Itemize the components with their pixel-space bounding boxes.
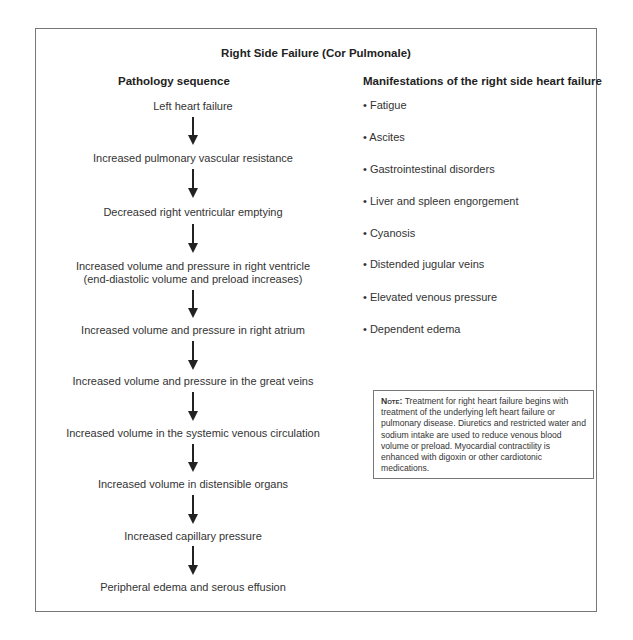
note-label: Note: [381, 396, 402, 406]
down-arrow-icon [192, 392, 194, 419]
step-left-heart-failure: Left heart failure [43, 99, 343, 113]
down-arrow-icon [192, 224, 194, 251]
step-pulmonary-resistance: Increased pulmonary vascular resistance [43, 151, 343, 165]
step-capillary-pressure: Increased capillary pressure [43, 529, 343, 543]
manifestation-item: • Ascites [363, 131, 405, 143]
manifestation-item: • Fatigue [363, 99, 407, 111]
down-arrow-icon [192, 169, 194, 196]
step-great-veins: Increased volume and pressure in the gre… [43, 374, 343, 388]
manifestation-item: • Cyanosis [363, 227, 415, 239]
note-text: Treatment for right heart failure begins… [381, 396, 586, 473]
note-box: Note: Treatment for right heart failure … [373, 390, 594, 479]
manifestation-item: • Distended jugular veins [363, 258, 484, 270]
step-right-ventricle-detail: (end-diastolic volume and preload increa… [43, 272, 343, 286]
manifestation-item: • Gastrointestinal disorders [363, 163, 495, 175]
step-right-atrium: Increased volume and pressure in right a… [43, 323, 343, 337]
diagram-frame [35, 28, 597, 612]
step-peripheral-edema: Peripheral edema and serous effusion [43, 580, 343, 594]
pathology-heading: Pathology sequence [118, 75, 230, 87]
step-distensible-organs: Increased volume in distensible organs [43, 477, 343, 491]
manifestation-item: • Dependent edema [363, 323, 460, 335]
diagram-title: Right Side Failure (Cor Pulmonale) [35, 47, 597, 59]
step-systemic-venous: Increased volume in the systemic venous … [43, 426, 343, 440]
manifestations-heading: Manifestations of the right side heart f… [363, 75, 602, 87]
down-arrow-icon [192, 444, 194, 470]
down-arrow-icon [192, 341, 194, 368]
down-arrow-icon [192, 546, 194, 573]
manifestation-item: • Elevated venous pressure [363, 291, 497, 303]
down-arrow-icon [192, 117, 194, 143]
down-arrow-icon [192, 495, 194, 522]
manifestation-item: • Liver and spleen engorgement [363, 195, 519, 207]
down-arrow-icon [192, 290, 194, 316]
step-right-ventricle: Increased volume and pressure in right v… [43, 259, 343, 273]
step-decreased-emptying: Decreased right ventricular emptying [43, 205, 343, 219]
